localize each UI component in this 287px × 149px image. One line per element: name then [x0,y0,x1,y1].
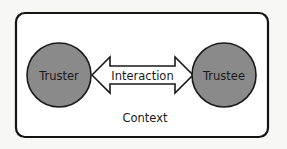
truster-label: Truster [38,69,79,83]
trust-diagram: Interaction Truster Trustee Context [0,0,287,149]
trustee-label: Trustee [202,69,245,83]
trustee-node: Trustee [192,43,256,107]
interaction-label: Interaction [111,69,173,83]
context-label: Context [122,111,168,125]
truster-node: Truster [27,43,91,107]
